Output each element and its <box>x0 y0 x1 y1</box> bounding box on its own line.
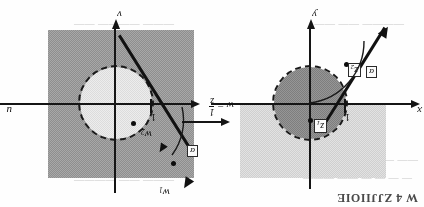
z-plane-label-z1: z1 <box>314 119 327 133</box>
transform-formula: w = 1 z <box>209 96 234 117</box>
w-plane-label-w1-sub: 1 <box>159 185 163 193</box>
w-plane-point-w1 <box>171 161 176 166</box>
w-plane-angle-arc <box>124 99 194 161</box>
z-plane-angle-arc <box>304 31 394 111</box>
w-plane-v-axis-label: v <box>117 9 122 21</box>
z-plane-y-axis-label: y <box>312 9 317 21</box>
scanned-figure-page: W 4 ZJJIIOIE — — — — —— ——— —— —— ——— ——… <box>0 0 424 207</box>
transform-formula-lhs: w <box>227 100 234 112</box>
w-plane-label-w1: w1 <box>159 185 170 199</box>
panel-w-plane: 1 w1 w2 α u v <box>0 0 212 207</box>
w-plane-ray-arrowhead <box>180 176 194 191</box>
transform-formula-numerator: 1 <box>209 107 214 117</box>
z-plane-label-alpha: α <box>366 66 377 78</box>
transform-formula-equals: = <box>217 100 223 112</box>
z-plane-label-z1-sub: 1 <box>317 120 320 127</box>
transform-formula-fraction: 1 z <box>209 96 214 117</box>
panel-z-plane: 1 z1 z2 α x y <box>212 0 424 207</box>
z-plane-unit-tick-label: 1 <box>345 112 350 123</box>
z-plane-point-z1 <box>308 118 313 123</box>
w-plane-u-axis-label: u <box>7 105 13 117</box>
z-plane-x-axis-label: x <box>417 105 422 117</box>
w-plane-label-w1-base: w <box>163 187 170 199</box>
transform-arrow-head <box>221 119 230 127</box>
z-plane-label-z1-base: z <box>320 121 324 132</box>
transform-arrow-shaft <box>182 121 226 123</box>
transform-formula-denominator: z <box>209 96 214 106</box>
w-plane-label-alpha: α <box>187 145 198 157</box>
w-plane-vertical-axis <box>114 27 116 193</box>
